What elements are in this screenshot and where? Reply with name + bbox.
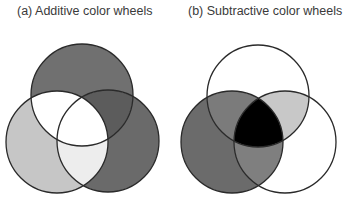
additive-color-wheel (6, 44, 159, 193)
color-wheels-diagram (0, 0, 350, 206)
subtractive-color-wheel (181, 45, 336, 193)
